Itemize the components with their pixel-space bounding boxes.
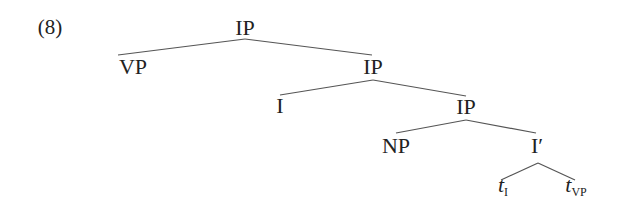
node-vp: VP — [119, 56, 147, 78]
branch-ip3-np — [396, 120, 466, 133]
node-ip-2: IP — [363, 56, 383, 78]
example-number: (8) — [38, 16, 63, 38]
node-i: I — [276, 95, 283, 117]
branch-ip2-i — [280, 80, 373, 95]
trace-subscript: VP — [571, 185, 586, 199]
node-i-bar: I′ — [531, 135, 543, 157]
branch-ip-ip2 — [245, 39, 372, 55]
node-np: NP — [382, 135, 410, 157]
tree-branches — [0, 0, 626, 216]
branch-ip3-ibar — [466, 120, 536, 133]
trace-subscript: I — [504, 185, 508, 199]
node-trace-vp: tVP — [565, 174, 586, 203]
node-trace-i: tI — [498, 174, 508, 203]
branch-ip-vp — [118, 39, 245, 55]
node-ip-root: IP — [235, 17, 255, 39]
branch-ip2-ip3 — [373, 80, 466, 96]
node-ip-3: IP — [456, 96, 476, 118]
